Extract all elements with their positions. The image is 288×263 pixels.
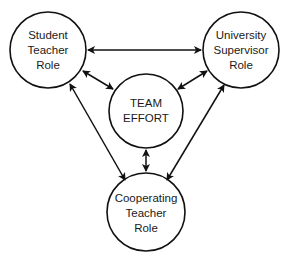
label-line: EFFORT (123, 111, 169, 126)
label-line: University (214, 28, 269, 43)
label-line: Teacher (115, 206, 178, 221)
label-line: Role (28, 58, 69, 73)
label-line: Role (214, 58, 269, 73)
arrow-student-cooperating (70, 84, 125, 180)
label-line: Teacher (28, 43, 69, 58)
team-effort-label: TEAM EFFORT (123, 96, 169, 126)
student-teacher-label: Student Teacher Role (28, 28, 69, 73)
cooperating-teacher-label: Cooperating Teacher Role (115, 191, 178, 236)
label-line: Role (115, 221, 178, 236)
label-line: TEAM (123, 96, 169, 111)
label-line: Supervisor (214, 43, 269, 58)
arrow-student-team (83, 71, 113, 89)
university-supervisor-label: University Supervisor Role (214, 28, 269, 73)
label-line: Student (28, 28, 69, 43)
label-line: Cooperating (115, 191, 178, 206)
arrow-university-team (178, 71, 207, 89)
